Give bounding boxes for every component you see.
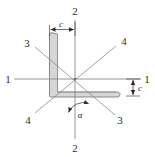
angle-alpha: α — [69, 103, 89, 120]
angle-section-inner-edge — [58, 34, 117, 92]
dimension-c-vertical: c — [126, 79, 142, 96]
axis-4-label-upper-right: 4 — [121, 35, 127, 47]
angle-section-diagram: c c α 1 1 2 2 3 3 4 4 — [0, 0, 155, 157]
angle-section-shape — [50, 33, 121, 97]
axis-2-label-top: 2 — [72, 5, 78, 17]
axis-4-label-lower-left: 4 — [25, 114, 31, 126]
axis-3-label-lower-right: 3 — [117, 114, 123, 126]
dim-c-vertical-label: c — [138, 83, 142, 93]
diagram-canvas: c c α 1 1 2 2 3 3 4 4 — [0, 0, 155, 157]
angle-section-outline — [50, 33, 121, 97]
axis-1-label-right: 1 — [144, 73, 150, 85]
centroid-point — [74, 78, 76, 80]
angle-alpha-label: α — [78, 110, 83, 120]
axis-2-label-bottom: 2 — [72, 142, 78, 154]
axis-3-label-upper-left: 3 — [24, 37, 30, 49]
dim-c-horizontal-label: c — [59, 19, 63, 29]
axis-1-label-left: 1 — [5, 73, 11, 85]
